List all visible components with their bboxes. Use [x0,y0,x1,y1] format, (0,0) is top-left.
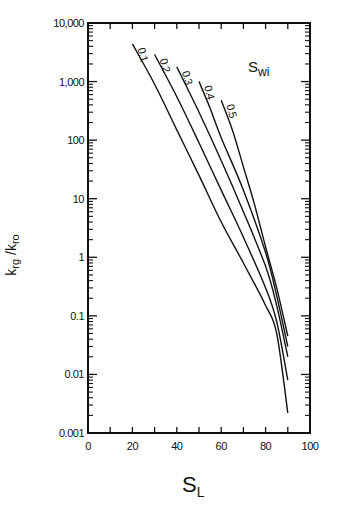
x-tick-label: 20 [127,440,139,452]
curve-swi-0.4 [199,82,288,347]
legend-title: Swi [248,58,269,79]
x-tick-label: 40 [171,440,183,452]
curve-label: 0.3 [180,69,195,86]
curve-label: 0.5 [224,103,239,120]
y-axis-label: krg /kro [3,234,22,275]
x-tick-label: 0 [85,440,91,452]
plot-frame [88,23,310,433]
y-tick-label: 0.1 [70,310,84,322]
x-tick-label: 60 [216,440,228,452]
y-tick-label: 0.01 [65,368,85,380]
y-tick-label: 0.001 [59,427,84,439]
curve-swi-0.2 [155,54,288,380]
y-tick-label: 100 [67,134,84,146]
curve-label: 0.4 [202,84,217,101]
y-tick-label: 1,000 [59,76,84,88]
curve-label: 0.2 [158,57,173,74]
y-tick-label: 1 [78,251,84,263]
y-tick-label: 10 [73,193,85,205]
x-tick-label: 80 [260,440,272,452]
x-tick-label: 100 [302,440,319,452]
x-axis-label: SL [182,472,204,500]
y-tick-label: 10,000 [53,17,84,29]
curve-label: 0.1 [135,46,150,63]
curve-swi-0.1 [132,44,287,413]
chart-canvas: 0204060801000.0010.010.11101001,00010,00… [0,0,340,512]
